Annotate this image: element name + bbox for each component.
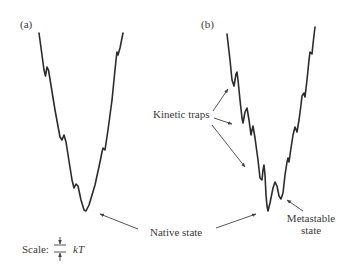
metastable-label-line2: state	[281, 224, 341, 236]
kinetic-trap-arrow-1	[213, 89, 228, 111]
funnel-curve-b	[227, 27, 315, 211]
panel-label-a: (a)	[20, 18, 32, 30]
native-state-arrow-a	[100, 214, 138, 229]
native-state-arrow-b	[216, 214, 256, 228]
native-state-label: Native state	[150, 226, 202, 238]
kinetic-trap-arrow-3	[212, 125, 245, 167]
scale-bar-icon	[54, 237, 66, 261]
metastable-label-line1: Metastable	[281, 212, 341, 224]
scale-label: Scale:	[22, 243, 49, 255]
funnel-curve-a	[39, 33, 123, 211]
scale-unit-kt: kT	[73, 243, 84, 255]
metastable-arrow	[287, 200, 303, 211]
kinetic-traps-label: Kinetic traps	[153, 108, 210, 120]
panel-label-b: (b)	[201, 18, 214, 30]
kinetic-trap-arrow-2	[214, 118, 232, 124]
